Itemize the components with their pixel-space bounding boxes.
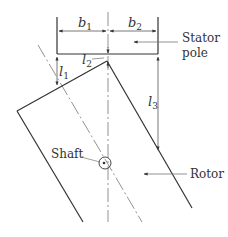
stator-label-line2: pole xyxy=(182,46,208,60)
stator-pole-outline xyxy=(57,17,158,54)
l3-label: l3 xyxy=(148,94,158,111)
shaft-label: Shaft xyxy=(51,147,84,161)
rotor-axis-line xyxy=(38,45,142,222)
stator-label-line1: Stator xyxy=(182,31,220,45)
b1-label: b1 xyxy=(78,15,92,32)
shaft-leader xyxy=(81,157,100,162)
rotor-label: Rotor xyxy=(190,167,224,181)
shaft-center-dot xyxy=(103,162,106,165)
b2-label: b2 xyxy=(128,15,142,32)
stator-rotor-diagram: b1 b2 l1 l2 l3 Stator pole Shaft Rotor xyxy=(0,0,228,237)
l1-label: l1 xyxy=(59,64,69,81)
rotor-outline xyxy=(17,61,192,222)
diagram-canvas: b1 b2 l1 l2 l3 Stator pole Shaft Rotor xyxy=(0,0,228,237)
